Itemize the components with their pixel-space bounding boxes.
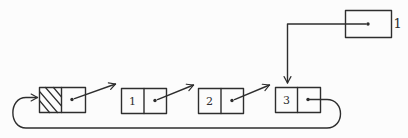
next-pointer-dot xyxy=(70,98,73,101)
list-node-1: 1 xyxy=(122,89,167,114)
node-value: 2 xyxy=(206,95,213,108)
linked-list-diagram: 1 1 2 xyxy=(0,0,408,138)
node-value: 1 xyxy=(129,95,136,108)
node-value: 3 xyxy=(283,94,290,107)
next-arrow-1-to-2 xyxy=(158,85,194,100)
list-node-2: 2 xyxy=(199,89,244,114)
hatch-pattern xyxy=(40,88,62,113)
next-pointer-dot xyxy=(153,99,156,102)
pointer-box-label: 1 xyxy=(394,16,402,31)
header-node xyxy=(40,88,86,113)
pointer-arrow xyxy=(288,24,367,83)
next-pointer-dot xyxy=(230,99,233,102)
pointer-dot xyxy=(366,22,369,25)
next-arrow-2-to-3 xyxy=(235,85,270,100)
next-arrow-header-to-1 xyxy=(75,84,116,99)
linked-list-figure: 1 1 2 xyxy=(0,0,408,138)
